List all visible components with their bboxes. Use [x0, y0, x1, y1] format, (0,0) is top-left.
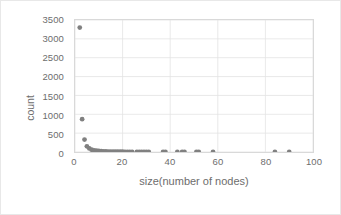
- data-point: [77, 25, 82, 30]
- y-tick-label: 1500: [42, 90, 64, 101]
- scatter-chart-figure: count 0500100015002000250030003500 02040…: [0, 0, 341, 215]
- plot-area: [74, 19, 314, 153]
- y-tick-label: 2500: [42, 52, 64, 63]
- x-axis-title: size(number of nodes): [74, 175, 314, 187]
- y-tick-label: 3000: [42, 33, 64, 44]
- x-tick-label: 40: [165, 156, 176, 167]
- data-point: [211, 150, 216, 152]
- x-tick-label: 20: [117, 156, 128, 167]
- data-point: [82, 137, 87, 142]
- y-tick-label: 2000: [42, 71, 64, 82]
- data-points-layer: [75, 20, 313, 152]
- y-tick-label: 1000: [42, 109, 64, 120]
- y-axis-tick-labels: 0500100015002000250030003500: [1, 19, 69, 153]
- x-tick-label: 0: [71, 156, 76, 167]
- y-tick-label: 500: [48, 128, 64, 139]
- data-point: [287, 150, 292, 152]
- y-tick-label: 0: [59, 148, 64, 159]
- series-component-size-distribution: [77, 25, 291, 152]
- x-tick-label: 80: [261, 156, 272, 167]
- data-point: [80, 117, 85, 122]
- data-point: [273, 150, 278, 152]
- data-point: [175, 150, 180, 152]
- x-tick-label: 60: [213, 156, 224, 167]
- y-tick-label: 3500: [42, 14, 64, 25]
- x-tick-label: 100: [306, 156, 322, 167]
- x-axis-tick-labels: 020406080100: [74, 156, 314, 170]
